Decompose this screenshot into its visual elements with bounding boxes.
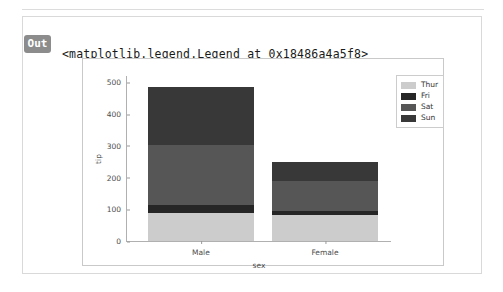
x-tick-male: Male bbox=[192, 248, 210, 257]
bar-segment-male-sun[interactable] bbox=[148, 87, 254, 145]
plot-axes: 0 100 200 300 400 bbox=[126, 76, 391, 242]
y-tickmark-100 bbox=[127, 209, 130, 210]
legend-label-fri: Fri bbox=[421, 92, 430, 100]
x-tick-label-female: Female bbox=[311, 248, 338, 257]
y-tick-100: 100 bbox=[107, 205, 127, 214]
y-tickmark-0 bbox=[127, 241, 130, 242]
x-tick-female: Female bbox=[311, 248, 338, 257]
bar-segment-female-fri[interactable] bbox=[272, 211, 378, 215]
bar-segment-female-sun[interactable] bbox=[272, 162, 378, 180]
y-tick-0: 0 bbox=[116, 237, 127, 246]
y-tick-label-0: 0 bbox=[116, 237, 121, 246]
legend-label-sun: Sun bbox=[421, 114, 435, 122]
y-tickmark-500 bbox=[127, 82, 130, 83]
bar-segment-male-fri[interactable] bbox=[148, 205, 254, 213]
y-tick-label-100: 100 bbox=[107, 205, 121, 214]
y-tickmark-300 bbox=[127, 146, 130, 147]
y-tick-label-300: 300 bbox=[107, 141, 121, 150]
plot-area: 0 100 200 300 400 bbox=[127, 76, 391, 241]
x-tickmark-male bbox=[201, 241, 202, 244]
legend-item-sat[interactable]: Sat bbox=[401, 102, 438, 112]
legend-label-sat: Sat bbox=[421, 103, 433, 111]
y-tick-200: 200 bbox=[107, 173, 127, 182]
y-tickmark-400 bbox=[127, 114, 130, 115]
y-tick-300: 300 bbox=[107, 141, 127, 150]
bar-segment-male-thur[interactable] bbox=[148, 213, 254, 241]
y-tick-500: 500 bbox=[107, 78, 127, 87]
bar-segment-female-thur[interactable] bbox=[272, 215, 378, 241]
bar-segment-male-sat[interactable] bbox=[148, 145, 254, 205]
bar-male[interactable] bbox=[148, 87, 254, 241]
legend-item-fri[interactable]: Fri bbox=[401, 91, 438, 101]
legend-swatch-thur bbox=[401, 82, 416, 89]
y-tick-400: 400 bbox=[107, 110, 127, 119]
x-axis-label: sex bbox=[253, 261, 266, 270]
x-tickmark-female bbox=[325, 241, 326, 244]
y-tick-label-200: 200 bbox=[107, 173, 121, 182]
x-tick-label-male: Male bbox=[192, 248, 210, 257]
legend-swatch-sat bbox=[401, 104, 416, 111]
legend-swatch-fri bbox=[401, 93, 416, 100]
legend-label-thur: Thur bbox=[421, 81, 438, 89]
bar-segment-female-sat[interactable] bbox=[272, 181, 378, 211]
y-tickmark-200 bbox=[127, 178, 130, 179]
output-cell: Out <matplotlib.legend.Legend at 0x18486… bbox=[22, 16, 482, 274]
legend-item-sun[interactable]: Sun bbox=[401, 113, 438, 123]
previous-cell-divider bbox=[22, 0, 484, 10]
out-prompt-badge: Out bbox=[24, 35, 51, 53]
matplotlib-figure: 0 100 200 300 400 bbox=[82, 58, 444, 266]
legend-swatch-sun bbox=[401, 115, 416, 122]
bar-female[interactable] bbox=[272, 162, 378, 241]
legend-item-thur[interactable]: Thur bbox=[401, 80, 438, 90]
y-axis-label: tip bbox=[94, 154, 103, 164]
chart-legend[interactable]: Thur Fri Sat Sun bbox=[396, 75, 444, 128]
y-tick-label-400: 400 bbox=[107, 110, 121, 119]
y-tick-label-500: 500 bbox=[107, 78, 121, 87]
